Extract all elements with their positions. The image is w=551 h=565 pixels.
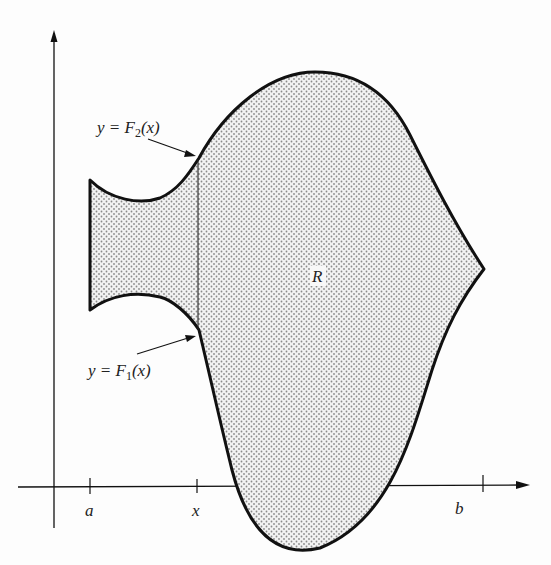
y-axis-arrow-icon	[51, 30, 58, 42]
upper-curve-label: y = F2(x)	[95, 118, 160, 140]
arrowhead-icon	[184, 150, 196, 157]
y-axis	[51, 30, 58, 528]
region-diagram: y = F2(x) y = F1(x) R a x b	[0, 0, 551, 565]
tick-label-b: b	[455, 499, 464, 518]
arrowhead-icon	[185, 335, 196, 342]
lower-curve-pointer	[137, 335, 196, 354]
lower-curve-label: y = F1(x)	[86, 361, 151, 383]
x-axis-arrow-icon	[516, 481, 530, 489]
region-label: R	[311, 267, 323, 286]
tick-label-x: x	[191, 501, 200, 520]
tick-label-a: a	[85, 501, 94, 520]
region-r-shape	[90, 72, 484, 550]
upper-curve-pointer	[148, 139, 196, 157]
